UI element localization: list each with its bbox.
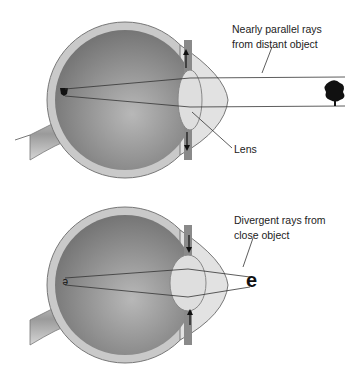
- label-rays-top-line1: Nearly parallel rays: [232, 22, 322, 37]
- retina-image-e: e: [62, 277, 68, 288]
- label-rays-top: Nearly parallel rays from distant object: [232, 22, 322, 52]
- lens: [170, 255, 206, 311]
- nerve-stub: [15, 135, 30, 140]
- vitreous-body: [55, 30, 195, 170]
- object-e: e: [246, 270, 257, 290]
- label-rays-top-line2: from distant object: [232, 37, 322, 52]
- label-rays-bottom: Divergent rays from close object: [234, 213, 326, 243]
- bottom-eye: e: [30, 207, 253, 363]
- label-lens: Lens: [234, 142, 257, 157]
- label-rays-bottom-line2: close object: [234, 228, 326, 243]
- eye-diagram: e: [0, 0, 357, 368]
- label-rays-bottom-line1: Divergent rays from: [234, 213, 326, 228]
- tree-icon: [325, 80, 345, 106]
